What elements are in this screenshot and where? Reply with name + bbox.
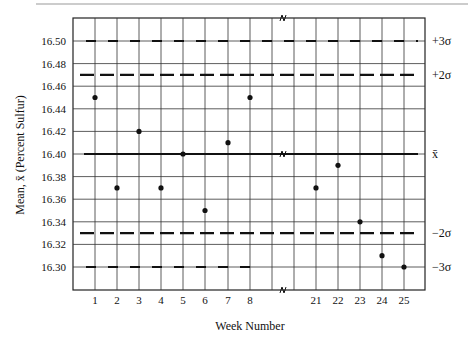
control-line-label: x̄ <box>432 147 438 161</box>
y-tick-label: 16.44 <box>41 103 66 115</box>
x-tick-label: 23 <box>355 294 367 306</box>
data-point <box>114 185 119 190</box>
x-tick-label: 24 <box>377 294 389 306</box>
y-tick-label: 16.40 <box>41 148 66 160</box>
y-tick-label: 16.38 <box>41 171 66 183</box>
control-line-label: +2σ <box>432 68 452 82</box>
y-axis-label: Mean, x̄ (Percent Sulfur) <box>13 95 27 214</box>
x-axis-label: Week Number <box>215 319 284 333</box>
y-axis-ticks: 16.3016.3216.3416.3616.3816.4016.4216.44… <box>41 35 66 273</box>
axis-break-marks <box>280 15 286 293</box>
x-tick-label: 3 <box>136 294 142 306</box>
data-point <box>247 95 252 100</box>
control-chart: 16.3016.3216.3416.3616.3816.4016.4216.44… <box>0 0 468 344</box>
y-tick-label: 16.46 <box>41 80 66 92</box>
control-limit-lines <box>80 41 418 267</box>
x-tick-label: 4 <box>158 294 164 306</box>
data-point <box>202 208 207 213</box>
x-tick-label: 22 <box>333 294 344 306</box>
data-point <box>379 253 384 258</box>
x-tick-label: 7 <box>225 294 231 306</box>
break-mark <box>280 151 286 157</box>
y-tick-label: 16.48 <box>41 58 66 70</box>
y-tick-label: 16.32 <box>41 238 66 250</box>
data-point <box>313 185 318 190</box>
x-axis-ticks: 123456782122232425 <box>92 294 410 306</box>
data-point <box>357 219 362 224</box>
y-tick-label: 16.42 <box>41 125 66 137</box>
x-tick-label: 1 <box>92 294 98 306</box>
control-limit-labels: +3σ+2σx̄−2σ−3σ <box>432 34 452 274</box>
x-tick-label: 6 <box>202 294 208 306</box>
data-point <box>136 129 141 134</box>
data-point <box>335 163 340 168</box>
data-point <box>401 264 406 269</box>
y-tick-label: 16.34 <box>41 216 66 228</box>
x-tick-label: 5 <box>180 294 186 306</box>
data-point <box>225 140 230 145</box>
data-point <box>92 95 97 100</box>
break-mark <box>280 287 286 293</box>
data-point <box>180 151 185 156</box>
break-mark <box>280 15 286 21</box>
data-point <box>158 185 163 190</box>
y-tick-label: 16.50 <box>41 35 66 47</box>
x-tick-label: 2 <box>114 294 120 306</box>
y-tick-label: 16.30 <box>41 261 66 273</box>
y-tick-label: 16.36 <box>41 193 66 205</box>
x-tick-label: 25 <box>399 294 411 306</box>
x-tick-label: 8 <box>247 294 253 306</box>
control-line-label: −2σ <box>432 226 452 240</box>
control-line-label: −3σ <box>432 260 452 274</box>
control-line-label: +3σ <box>432 34 452 48</box>
data-points <box>92 95 406 270</box>
x-tick-label: 21 <box>311 294 322 306</box>
